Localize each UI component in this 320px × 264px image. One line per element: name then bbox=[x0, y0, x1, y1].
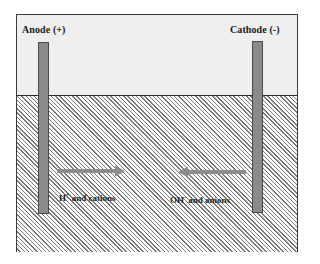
arrow-left-icon bbox=[178, 166, 246, 178]
anion-suffix: and anions bbox=[186, 195, 230, 205]
anion-species: OH bbox=[170, 195, 184, 205]
arrow-right-icon bbox=[57, 165, 127, 177]
cation-migration-label: H+ and cations bbox=[59, 192, 115, 203]
cation-suffix: and cations bbox=[69, 193, 115, 203]
cathode-label: Cathode (-) bbox=[230, 24, 280, 35]
cation-species: H bbox=[59, 193, 66, 203]
cathode-electrode bbox=[252, 41, 263, 213]
anode-electrode bbox=[38, 42, 49, 214]
anode-label: Anode (+) bbox=[22, 24, 66, 35]
anion-migration-label: OH- and anions bbox=[170, 194, 230, 205]
